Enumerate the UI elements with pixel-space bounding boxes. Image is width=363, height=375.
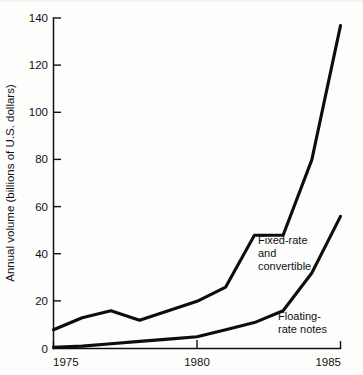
y-axis-title: Annual volume (billions of U.S. dollars)	[4, 84, 16, 282]
y-tick-label-40: 40	[35, 248, 48, 260]
y-axis-ticks	[54, 18, 62, 301]
annotation-fixed-rate-line-3: convertible	[258, 260, 311, 272]
x-tick-label-1980: 1980	[184, 356, 210, 368]
annotation-floating-rate-notes: Floating- rate notes	[278, 310, 327, 335]
y-axis-tick-labels: 140 120 100 80 60 40 20 0	[29, 12, 48, 355]
line-chart: 140 120 100 80 60 40 20 0 1975 1980 1985…	[0, 0, 363, 375]
axes	[54, 18, 341, 349]
y-tick-label-80: 80	[35, 153, 48, 165]
chart-page: 140 120 100 80 60 40 20 0 1975 1980 1985…	[0, 0, 363, 375]
y-tick-label-120: 120	[29, 59, 48, 71]
annotation-floating-rate-line-2: rate notes	[278, 323, 327, 335]
y-tick-label-60: 60	[35, 201, 48, 213]
x-tick-label-1975: 1975	[53, 356, 79, 368]
annotation-fixed-rate-line-1: Fixed-rate	[258, 234, 308, 246]
y-tick-label-0: 0	[42, 343, 48, 355]
x-axis-tick-labels: 1975 1980 1985	[53, 356, 341, 368]
annotation-floating-rate-line-1: Floating-	[278, 310, 321, 322]
annotation-fixed-rate-and-convertible: Fixed-rate and convertible	[258, 234, 311, 272]
y-tick-label-100: 100	[29, 106, 48, 118]
series-line-fixed-rate-and-convertible	[54, 26, 341, 330]
y-tick-label-140: 140	[29, 12, 48, 24]
annotation-fixed-rate-line-2: and	[258, 247, 276, 259]
x-tick-label-1985: 1985	[315, 356, 341, 368]
y-tick-label-20: 20	[35, 295, 48, 307]
